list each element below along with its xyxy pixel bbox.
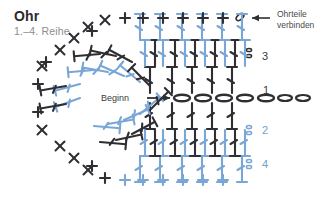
row-4-stitches: [135, 130, 247, 182]
foundation-chain-row: [174, 95, 310, 101]
turning-chain-marks: [246, 48, 251, 168]
crochet-chart-svg: [0, 0, 327, 199]
crochet-chart-page: Ohr 1.–4. Reihe Ohrteile verbinden Begin…: [0, 0, 327, 199]
top-band-blue-stitches: [135, 14, 247, 40]
top-edge-single-crochet-row: [84, 13, 229, 36]
